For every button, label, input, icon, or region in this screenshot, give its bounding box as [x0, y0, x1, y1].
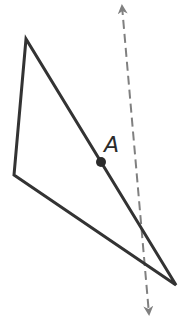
- diagram-svg: A: [0, 0, 190, 336]
- point-a-label: A: [102, 132, 119, 157]
- diagram-canvas: A: [0, 0, 190, 336]
- triangle: [14, 39, 176, 285]
- dashed-line: [122, 6, 149, 314]
- point-a: [96, 157, 106, 167]
